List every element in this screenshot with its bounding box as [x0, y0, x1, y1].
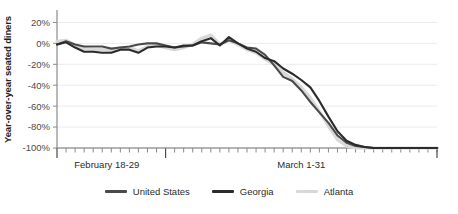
y-tick-label: 20% — [31, 17, 51, 28]
chart-legend: United States Georgia Atlanta — [0, 186, 458, 197]
legend-swatch-atlanta — [296, 190, 318, 193]
y-tick-label: -20% — [28, 59, 51, 70]
y-tick-labels: 20%0%-20%-40%-60%-80%-100% — [23, 17, 51, 154]
gridlines — [53, 22, 437, 148]
legend-item-georgia[interactable]: Georgia — [212, 186, 274, 197]
legend-swatch-georgia — [212, 190, 234, 193]
x-band-label: February 18-29 — [74, 159, 139, 170]
series-lines — [57, 35, 437, 148]
legend-label-atlanta: Atlanta — [324, 186, 354, 197]
y-tick-label: -40% — [28, 80, 51, 91]
legend-swatch-united-states — [105, 190, 127, 193]
legend-item-atlanta[interactable]: Atlanta — [296, 186, 354, 197]
y-tick-label: -100% — [23, 142, 51, 153]
x-band-labels: February 18-29March 1-31 — [74, 159, 325, 170]
y-tick-label: 0% — [36, 38, 50, 49]
x-band-label: March 1-31 — [277, 159, 325, 170]
series-line — [57, 40, 437, 148]
y-tick-label: -80% — [28, 121, 51, 132]
legend-label-georgia: Georgia — [240, 186, 274, 197]
series-line — [57, 37, 437, 148]
chart-plot-area: 20%0%-20%-40%-60%-80%-100% February 18-2… — [0, 0, 458, 214]
legend-label-united-states: United States — [133, 186, 190, 197]
axis-lines — [57, 10, 439, 158]
legend-item-united-states[interactable]: United States — [105, 186, 190, 197]
seated-diners-line-chart: Year-over-year seated diners 20%0%-20%-4… — [0, 0, 458, 214]
y-tick-label: -60% — [28, 101, 51, 112]
